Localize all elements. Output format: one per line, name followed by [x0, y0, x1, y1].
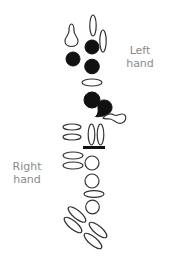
side-key-3-icon — [88, 124, 95, 145]
right-hand-label-line2: hand — [4, 173, 50, 186]
bis-key-icon — [82, 79, 102, 86]
right-hand-label-line1: Right — [4, 160, 50, 173]
lh-2-key-icon — [85, 59, 100, 74]
octave-key-icon — [65, 24, 78, 47]
pinky-key-2-icon — [62, 215, 84, 235]
side-key-5-icon — [63, 152, 83, 159]
side-key-2-icon — [63, 134, 81, 140]
side-key-4-icon — [97, 124, 104, 145]
rh-3-key-icon — [86, 200, 100, 214]
f-sharp-key-icon — [84, 191, 104, 198]
low-keys-cluster-icon — [103, 114, 126, 123]
pinky-key-1-icon — [66, 204, 88, 224]
palm-key-2-icon — [100, 30, 106, 52]
palm-key-1-icon — [90, 15, 96, 36]
rh-1-key-icon — [85, 156, 99, 170]
side-key-1-icon — [63, 124, 81, 130]
left-hand-label: Left hand — [118, 44, 162, 70]
pinky-key-4-icon — [82, 231, 104, 251]
hand-divider-bar — [83, 146, 105, 149]
right-hand-label: Right hand — [4, 160, 50, 186]
left-hand-label-line1: Left — [118, 44, 162, 57]
rh-2-key-icon — [85, 174, 99, 188]
side-key-6-icon — [63, 162, 83, 169]
left-hand-label-line2: hand — [118, 57, 162, 70]
lh-1-key-icon — [85, 40, 99, 54]
fingering-diagram — [0, 0, 170, 264]
front-f-key-icon — [66, 52, 80, 66]
pinky-key-3-icon — [87, 220, 109, 240]
